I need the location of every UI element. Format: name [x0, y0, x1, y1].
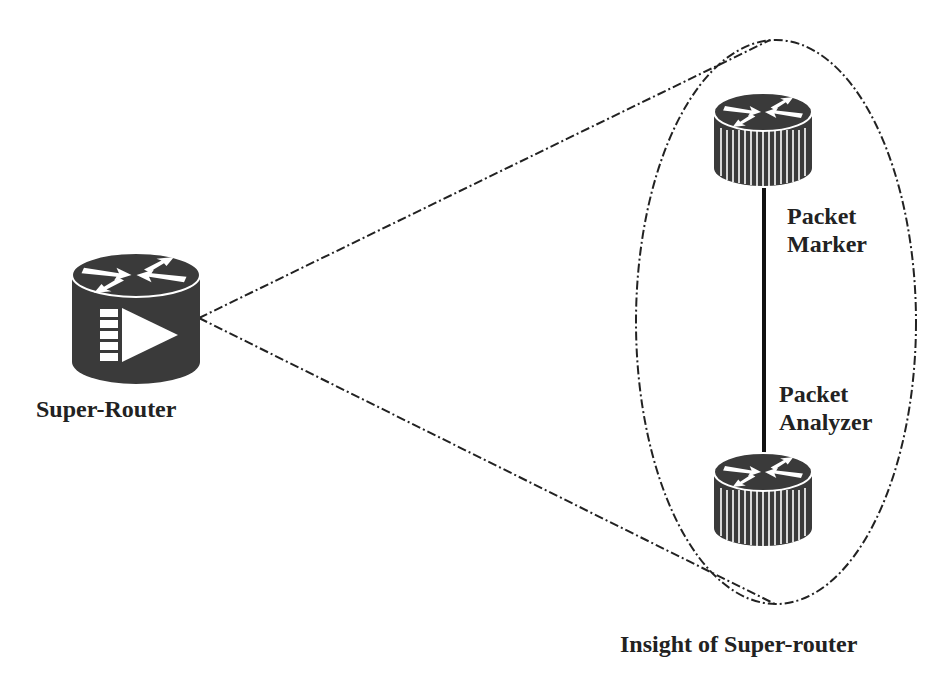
packet-analyzer-label-line-2: Analyzer — [779, 409, 872, 437]
packet-analyzer-router-icon — [714, 453, 812, 546]
diagram-canvas — [0, 0, 952, 695]
zoom-cone — [199, 40, 775, 604]
packet-marker-label-line-2: Marker — [787, 231, 867, 259]
packet-marker-label: Packet Marker — [787, 203, 867, 258]
super-router-label: Super-Router — [36, 396, 176, 424]
packet-marker-label-line-1: Packet — [787, 203, 867, 231]
insight-label: Insight of Super-router — [620, 631, 857, 659]
packet-marker-router-icon — [714, 93, 812, 186]
packet-analyzer-label: Packet Analyzer — [779, 381, 872, 436]
packet-analyzer-label-line-1: Packet — [779, 381, 872, 409]
super-router-icon — [72, 253, 200, 384]
